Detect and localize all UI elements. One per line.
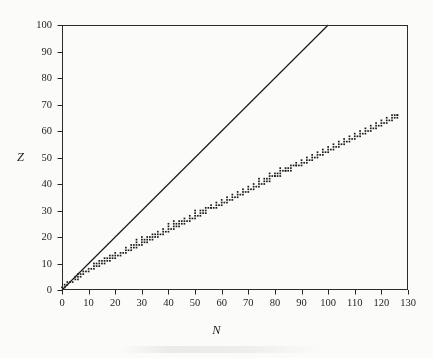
x-tick-label: 120 xyxy=(374,298,390,308)
x-tick-label: 10 xyxy=(83,298,94,308)
x-tick-label: 90 xyxy=(296,298,307,308)
x-axis-tick-labels: 0102030405060708090100110120130 xyxy=(0,0,433,358)
figure-page: 0102030405060708090100 01020304050607080… xyxy=(0,0,433,358)
x-tick-label: 130 xyxy=(400,298,416,308)
x-tick-label: 70 xyxy=(243,298,254,308)
x-tick-label: 50 xyxy=(190,298,201,308)
x-tick-label: 80 xyxy=(270,298,281,308)
x-tick-label: 100 xyxy=(320,298,336,308)
x-tick-label: 40 xyxy=(163,298,174,308)
x-tick-label: 60 xyxy=(216,298,227,308)
x-axis-title: N xyxy=(0,323,433,338)
x-tick-label: 0 xyxy=(59,298,64,308)
x-tick-label: 30 xyxy=(137,298,148,308)
x-tick-label: 110 xyxy=(347,298,362,308)
x-tick-label: 20 xyxy=(110,298,121,308)
y-axis-title: Z xyxy=(17,150,24,165)
